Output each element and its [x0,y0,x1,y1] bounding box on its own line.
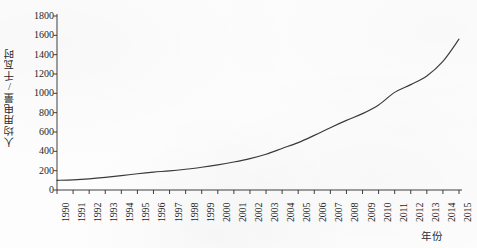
axis-ticks [54,16,460,194]
chart-page: 人均用电量/千瓦时 020040060080010001200140016001… [0,0,477,248]
axis-lines [57,14,462,190]
line-chart: 人均用电量/千瓦时 020040060080010001200140016001… [0,0,477,248]
data-series-line [57,39,459,180]
plot-canvas [0,0,477,248]
x-axis-title: 年份 [421,228,442,243]
